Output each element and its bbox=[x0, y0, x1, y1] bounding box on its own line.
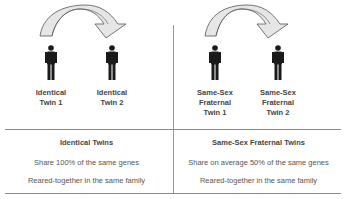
identical-twins-reared: Reared-together in the same family bbox=[4, 176, 169, 185]
table-top-line bbox=[5, 129, 341, 130]
label-fraternal-twin-2: Same-Sex Fraternal Twin 2 bbox=[248, 88, 308, 118]
column-divider bbox=[173, 25, 174, 193]
label-fraternal-twin-1: Same-Sex Fraternal Twin 1 bbox=[185, 88, 245, 118]
person-icon-fraternal-twin-2 bbox=[271, 45, 285, 81]
identical-twins-genes: Share 100% of the same genes bbox=[4, 158, 169, 167]
person-icon-fraternal-twin-1 bbox=[208, 45, 222, 81]
fraternal-twins-reared: Reared-together in the same family bbox=[176, 176, 341, 185]
label-identical-twin-1: Identical Twin 1 bbox=[21, 88, 81, 108]
fraternal-twins-genes: Share on average 50% of the same genes bbox=[176, 158, 341, 167]
label-identical-twin-2: Identical Twin 2 bbox=[82, 88, 142, 108]
table-bottom-line bbox=[5, 193, 341, 194]
identical-twins-header: Identical Twins bbox=[4, 138, 169, 147]
person-icon-identical-twin-2 bbox=[105, 45, 119, 81]
person-icon-identical-twin-1 bbox=[44, 45, 58, 81]
fraternal-twins-header: Same-Sex Fraternal Twins bbox=[176, 138, 341, 147]
